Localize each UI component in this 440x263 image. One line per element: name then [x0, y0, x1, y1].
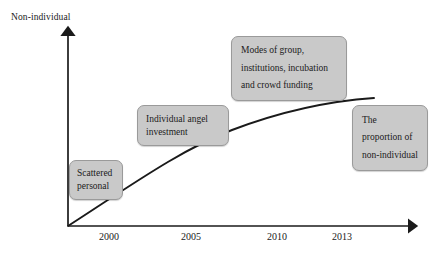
- x-tick-label-2013: 2013: [332, 231, 352, 242]
- callout-line: institutions, incubation: [241, 60, 346, 78]
- callout-scattered-personal: Scattered personal: [69, 160, 123, 200]
- callout-individual-angel-investment: Individual angel investment: [137, 105, 229, 146]
- callout-line: Individual angel: [146, 113, 228, 126]
- y-axis-title: Non-individual: [11, 12, 70, 22]
- callout-line: and crowd funding: [241, 77, 346, 95]
- callout-line: proportion of: [362, 129, 427, 147]
- callout-line: personal: [77, 180, 122, 193]
- x-tick-label-2010: 2010: [267, 231, 287, 242]
- chart-figure: Non-individual 2000 2005 2010 2013 Scatt…: [0, 0, 440, 263]
- callout-line: Modes of group,: [241, 42, 346, 60]
- callout-modes-of-group: Modes of group, institutions, incubation…: [231, 36, 347, 101]
- x-tick-label-2000: 2000: [99, 231, 119, 242]
- x-tick-label-2005: 2005: [181, 231, 201, 242]
- callout-line: non-individual: [362, 147, 427, 165]
- callout-line: investment: [146, 126, 228, 139]
- callout-line: Scattered: [77, 167, 122, 180]
- callout-proportion-of-non-individual: The proportion of non-individual: [352, 105, 428, 171]
- callout-line: The: [362, 112, 427, 130]
